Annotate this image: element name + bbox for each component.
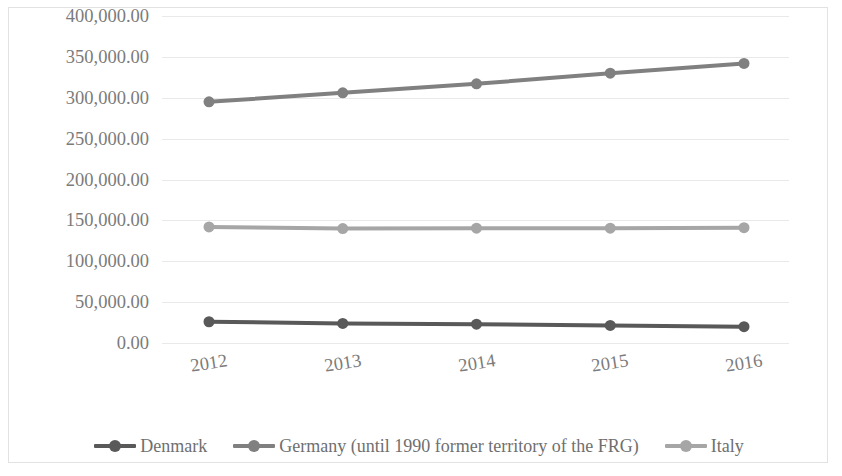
series-1: [204, 316, 750, 332]
y-tick-label: 150,000.00: [66, 210, 149, 231]
y-tick-label: 250,000.00: [66, 128, 149, 149]
data-point: [204, 316, 215, 327]
legend-dot: [109, 440, 121, 452]
data-point: [471, 319, 482, 330]
y-tick-label: 0.00: [117, 333, 149, 354]
series-3: [204, 221, 750, 234]
data-point: [471, 223, 482, 234]
data-point: [337, 318, 348, 329]
legend-marker-icon: [665, 439, 707, 453]
y-tick-label: 50,000.00: [75, 292, 149, 313]
data-point: [605, 320, 616, 331]
y-axis: 0.0050,000.00100,000.00150,000.00200,000…: [9, 8, 157, 464]
data-point: [739, 321, 750, 332]
legend-item-3[interactable]: Italy: [665, 436, 744, 457]
data-point: [739, 222, 750, 233]
data-point: [605, 68, 616, 79]
legend-marker-icon: [94, 439, 136, 453]
legend-label: Denmark: [140, 436, 207, 457]
legend-dot: [680, 440, 692, 452]
legend-label: Germany (until 1990 former territory of …: [279, 436, 638, 457]
data-point: [739, 58, 750, 69]
x-tick-label: 2016: [724, 350, 764, 377]
legend-label: Italy: [711, 436, 744, 457]
y-tick-label: 400,000.00: [66, 6, 149, 27]
y-tick-label: 200,000.00: [66, 169, 149, 190]
chart-legend: DenmarkGermany (until 1990 former territ…: [9, 428, 829, 464]
x-tick-label: 2014: [457, 350, 497, 377]
x-tick-label: 2012: [189, 350, 229, 377]
legend-marker-icon: [233, 439, 275, 453]
legend-item-2[interactable]: Germany (until 1990 former territory of …: [233, 436, 638, 457]
x-tick-label: 2013: [323, 350, 363, 377]
data-point: [337, 87, 348, 98]
data-point: [204, 221, 215, 232]
data-point: [471, 78, 482, 89]
legend-dot: [248, 440, 260, 452]
series-layer: [162, 16, 789, 343]
y-tick-label: 100,000.00: [66, 251, 149, 272]
y-tick-label: 350,000.00: [66, 46, 149, 67]
data-point: [204, 96, 215, 107]
y-tick-label: 300,000.00: [66, 87, 149, 108]
x-tick-label: 2015: [590, 350, 630, 377]
chart-container: 0.0050,000.00100,000.00150,000.00200,000…: [8, 7, 828, 463]
data-point: [605, 223, 616, 234]
x-axis: 20122013201420152016: [162, 343, 789, 397]
plot-area: [162, 16, 789, 343]
legend-item-1[interactable]: Denmark: [94, 436, 207, 457]
data-point: [337, 223, 348, 234]
series-2: [204, 58, 750, 107]
